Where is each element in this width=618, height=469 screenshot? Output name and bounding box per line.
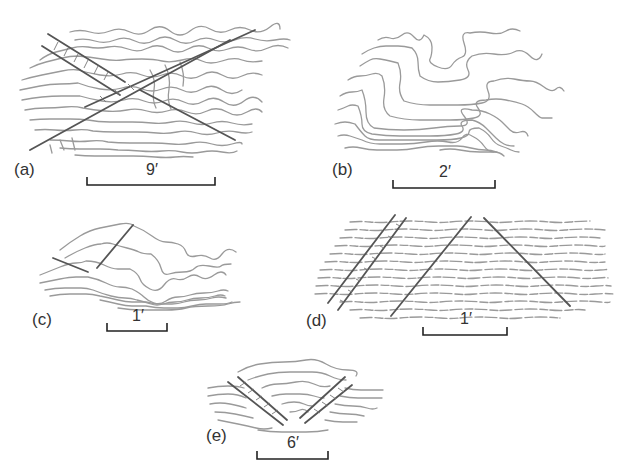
panel-e-contours — [208, 360, 383, 433]
scale-label-e: 6′ — [287, 434, 299, 452]
scale-label-a: 9′ — [146, 161, 158, 179]
scale-label-c: 1′ — [132, 307, 144, 325]
panel-c-drawing — [40, 223, 240, 310]
panel-label-b: (b) — [332, 160, 353, 180]
panel-e-drawing — [208, 360, 383, 433]
scale-label-d: 1′ — [460, 310, 472, 328]
panel-label-a: (a) — [14, 160, 35, 180]
scale-bar-e — [257, 451, 328, 459]
panel-c-contours — [40, 223, 240, 310]
panel-e-joints — [228, 377, 352, 425]
scale-bar-b — [393, 180, 495, 188]
geologic-fold-figure — [0, 0, 618, 469]
panel-b-drawing — [335, 29, 564, 156]
panel-b-contours — [335, 29, 564, 156]
panel-a-drawing — [20, 23, 290, 157]
scale-bar-d — [423, 327, 507, 335]
panel-a-contours — [20, 23, 290, 157]
panel-d-drawing — [315, 215, 613, 319]
panel-label-e: (e) — [206, 426, 227, 446]
scale-label-b: 2′ — [439, 163, 451, 181]
panel-label-d: (d) — [306, 311, 327, 331]
panel-label-c: (c) — [32, 310, 52, 330]
